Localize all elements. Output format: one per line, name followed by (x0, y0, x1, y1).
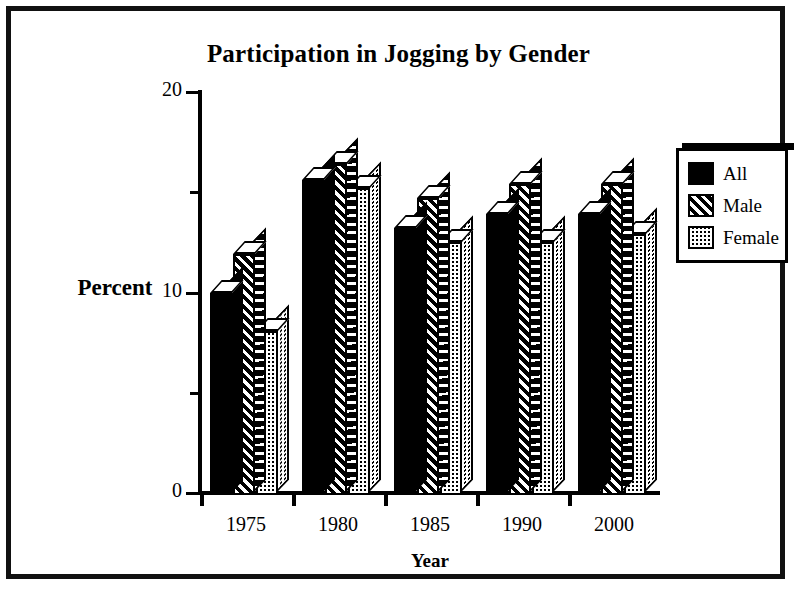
x-tick (200, 491, 204, 506)
legend-swatch-all-icon (688, 162, 714, 185)
x-tick (384, 491, 388, 506)
y-tick-label: 20 (128, 78, 182, 101)
x-tick-label: 2000 (569, 513, 659, 536)
x-tick-label: 1975 (201, 513, 291, 536)
legend-swatch-male-icon (688, 194, 714, 217)
legend-label-female: Female (723, 227, 779, 249)
bar-all-1975 (210, 293, 232, 496)
x-tick (292, 491, 296, 506)
legend-label-male: Male (723, 195, 762, 217)
x-tick-label: 1985 (385, 513, 475, 536)
y-tick-major (186, 91, 202, 94)
x-tick (568, 491, 572, 506)
legend-item-male: Male (688, 193, 777, 218)
legend-item-female: Female (688, 225, 777, 250)
bar-all-1980 (302, 180, 324, 495)
legend-item-all: All (688, 161, 777, 186)
legend-swatch-female-icon (688, 226, 714, 249)
x-axis-title: Year (200, 550, 660, 572)
y-tick-minor (190, 191, 202, 194)
chart-legend: All Male Female (676, 148, 788, 263)
bar-all-2000 (578, 214, 600, 495)
x-tick (476, 491, 480, 506)
y-axis-title: Percent (50, 275, 180, 301)
legend-label-all: All (723, 163, 747, 185)
x-tick-label: 1980 (293, 513, 383, 536)
bar-all-1985 (394, 228, 416, 495)
x-tick-label: 1990 (477, 513, 567, 536)
y-tick-major (186, 292, 202, 295)
y-tick-label: 0 (128, 479, 182, 502)
bar-all-1990 (486, 214, 508, 495)
y-tick-minor (190, 392, 202, 395)
figure-canvas: Participation in Jogging by Gender 01020… (0, 0, 797, 594)
